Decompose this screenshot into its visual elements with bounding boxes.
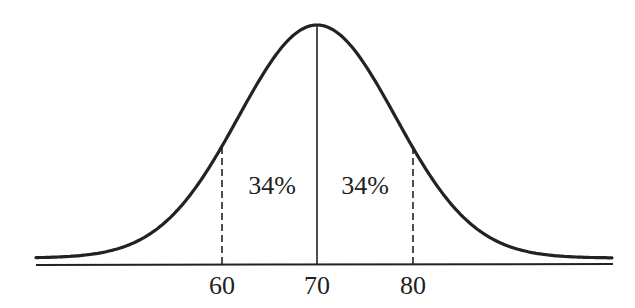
region-label-right: 34% (341, 171, 389, 200)
normal-curve-diagram: 34% 34% 60 70 80 (0, 0, 635, 308)
x-axis (36, 264, 613, 265)
tick-label-80: 80 (400, 271, 426, 300)
region-label-left: 34% (248, 171, 296, 200)
bell-curve (36, 25, 612, 258)
tick-label-60: 60 (209, 271, 235, 300)
tick-label-70: 70 (304, 271, 330, 300)
